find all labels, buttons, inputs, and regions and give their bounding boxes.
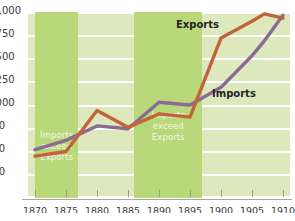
x-tick (66, 190, 67, 197)
y-tick-label: 1,750 (0, 28, 28, 39)
x-tick (221, 190, 222, 197)
series-container (28, 12, 290, 198)
x-tick (252, 190, 253, 197)
y-tick-label: 250 (0, 166, 28, 177)
y-tick-label: 1,250 (0, 74, 28, 85)
exports-line (35, 14, 283, 156)
imports-line (35, 15, 283, 149)
plot-area: Imports exceed Exports Imports exceed Ex… (28, 12, 290, 198)
trade-line-chart: $2,000 1,750 1,500 1,250 1,000 750 500 2… (0, 0, 295, 221)
y-tick-label: 1,000 (0, 97, 28, 108)
y-tick-label: 750 (0, 120, 28, 131)
exports-series-label: Exports (176, 19, 219, 30)
imports-series-label: Imports (212, 88, 256, 99)
x-axis-line (22, 199, 292, 200)
bottom-strip (0, 213, 295, 221)
y-tick-label: $2,000 (0, 5, 28, 16)
y-axis: $2,000 1,750 1,500 1,250 1,000 750 500 2… (0, 0, 28, 210)
x-tick (190, 190, 191, 197)
y-tick-label: 500 (0, 143, 28, 154)
x-tick (128, 190, 129, 197)
x-tick (159, 190, 160, 197)
y-tick-label: 1,500 (0, 51, 28, 62)
x-tick (283, 190, 284, 197)
x-tick (35, 190, 36, 197)
x-tick (97, 190, 98, 197)
